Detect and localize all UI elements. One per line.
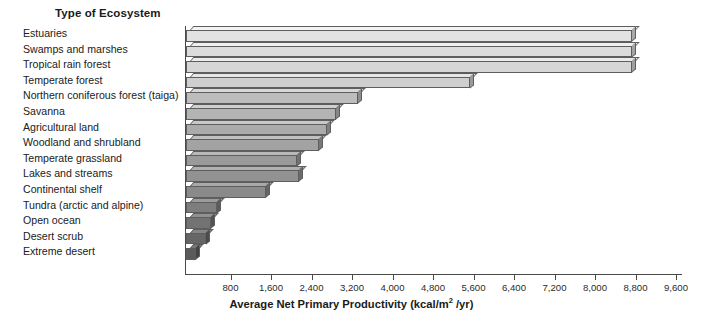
category-label: Northern coniferous forest (taiga) (23, 88, 183, 104)
axis-tick (595, 275, 596, 280)
category-label: Savanna (23, 104, 183, 120)
bar (186, 182, 271, 198)
bar-top-face (190, 104, 344, 108)
bar-face (186, 202, 217, 214)
bar-face (186, 217, 211, 229)
axis-tick-label: 8,800 (623, 282, 647, 293)
bar (186, 26, 637, 42)
bar-top-face (190, 182, 274, 186)
axis-tick-label: 3,200 (340, 282, 364, 293)
bar-face (186, 61, 632, 73)
bar (186, 135, 324, 151)
value-axis-title-prefix: Average Net Primary Productivity (kcal/m (230, 298, 449, 310)
axis-tick (312, 275, 313, 280)
bar-side-face (632, 42, 636, 58)
axis-tick (474, 275, 475, 280)
axis-tick (231, 275, 232, 280)
bar-top-face (190, 151, 304, 155)
category-axis-title: Type of Ecosystem (55, 7, 161, 19)
bar-face (186, 124, 327, 136)
bar (186, 213, 216, 229)
category-label: Swamps and marshes (23, 42, 183, 58)
bar-face (186, 170, 299, 182)
category-label: Temperate forest (23, 73, 183, 89)
bar (186, 244, 201, 260)
axis-tick (352, 275, 353, 280)
bar (186, 151, 302, 167)
plot-area: 8001,6002,4003,2004,0004,8005,6006,4007,… (185, 26, 682, 275)
axis-tick-label: 4,800 (421, 282, 445, 293)
bar-side-face (336, 104, 340, 120)
bar (186, 198, 222, 214)
bar-side-face (206, 229, 210, 245)
category-label: Agricultural land (23, 120, 183, 136)
bar-side-face (266, 182, 270, 198)
bar-top-face (190, 26, 639, 30)
bar (186, 120, 332, 136)
bar (186, 88, 363, 104)
category-label: Continental shelf (23, 182, 183, 198)
bar-side-face (217, 198, 221, 214)
bar-top-face (190, 42, 639, 46)
bar-side-face (211, 213, 215, 229)
category-label: Temperate grassland (23, 151, 183, 167)
bar-face (186, 46, 632, 58)
bar-top-face (190, 166, 306, 170)
bar-side-face (632, 57, 636, 73)
bar-face (186, 77, 470, 89)
bar (186, 73, 475, 89)
bar-chart: Type of Ecosystem EstuariesSwamps and ma… (0, 0, 703, 320)
bar-face (186, 108, 336, 120)
bar-face (186, 233, 206, 245)
bar-top-face (190, 73, 477, 77)
bar (186, 166, 304, 182)
bar-face (186, 139, 319, 151)
bar-face (186, 186, 266, 198)
category-label-list: EstuariesSwamps and marshesTropical rain… (23, 26, 183, 260)
bar-top-face (190, 57, 639, 61)
bar-top-face (190, 88, 366, 92)
bar (186, 104, 341, 120)
axis-tick-label: 8,000 (583, 282, 607, 293)
bar-side-face (196, 244, 200, 260)
bar-side-face (297, 151, 301, 167)
category-label: Tundra (arctic and alpine) (23, 198, 183, 214)
category-label: Tropical rain forest (23, 57, 183, 73)
bar-side-face (358, 88, 362, 104)
category-label: Extreme desert (23, 244, 183, 260)
axis-tick-label: 7,200 (542, 282, 566, 293)
category-label: Desert scrub (23, 229, 183, 245)
axis-tick-label: 800 (222, 282, 238, 293)
bar (186, 42, 637, 58)
axis-tick (433, 275, 434, 280)
bar-side-face (319, 135, 323, 151)
axis-tick (271, 275, 272, 280)
category-label: Lakes and streams (23, 166, 183, 182)
axis-tick (393, 275, 394, 280)
axis-tick-label: 6,400 (502, 282, 526, 293)
axis-tick-label: 1,600 (259, 282, 283, 293)
bar-face (186, 30, 632, 42)
bar-side-face (632, 26, 636, 42)
axis-tick-label: 9,600 (664, 282, 688, 293)
bar-top-face (190, 120, 335, 124)
bar-side-face (327, 120, 331, 136)
axis-tick (555, 275, 556, 280)
bar-face (186, 155, 297, 167)
bar-top-face (190, 135, 326, 139)
axis-tick (676, 275, 677, 280)
value-axis-title-suffix: /yr) (453, 298, 474, 310)
category-label: Estuaries (23, 26, 183, 42)
category-label: Open ocean (23, 213, 183, 229)
axis-tick (514, 275, 515, 280)
bar-side-face (470, 73, 474, 89)
axis-tick (636, 275, 637, 280)
category-label: Woodland and shrubland (23, 135, 183, 151)
value-axis-title: Average Net Primary Productivity (kcal/m… (0, 296, 703, 310)
axis-tick-label: 5,600 (461, 282, 485, 293)
bar-side-face (299, 166, 303, 182)
bar-face (186, 248, 196, 260)
bar (186, 229, 211, 245)
axis-tick-label: 4,000 (380, 282, 404, 293)
bar-face (186, 92, 358, 104)
